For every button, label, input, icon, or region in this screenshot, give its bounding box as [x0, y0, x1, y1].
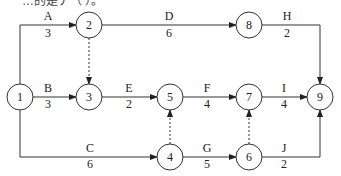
- node-label-7: 7: [246, 90, 252, 104]
- activity-duration-C: 6: [87, 157, 93, 171]
- node-3: 3: [76, 84, 102, 110]
- activity-duration-B: 3: [45, 97, 51, 111]
- activity-duration-A: 3: [45, 26, 51, 40]
- activity-name-J: J: [282, 141, 287, 155]
- network-diagram: A 3 B 3 C 6 D 6 E 2 F 4 G 5 H 2 I 4 J 2 …: [0, 0, 341, 176]
- activity-name-G: G: [203, 141, 212, 155]
- node-5: 5: [157, 84, 183, 110]
- activity-name-H: H: [283, 9, 292, 23]
- node-label-4: 4: [167, 150, 173, 164]
- activity-duration-F: 4: [204, 97, 210, 111]
- node-label-9: 9: [317, 90, 323, 104]
- activity-name-I: I: [282, 81, 286, 95]
- activity-name-A: A: [44, 9, 53, 23]
- activity-name-E: E: [125, 81, 132, 95]
- node-label-8: 8: [246, 18, 252, 32]
- arrow-J: [262, 110, 320, 157]
- node-label-1: 1: [17, 90, 23, 104]
- activity-name-F: F: [204, 81, 211, 95]
- node-6: 6: [236, 144, 262, 170]
- node-label-2: 2: [86, 18, 92, 32]
- activity-name-C: C: [86, 141, 94, 155]
- activity-duration-G: 5: [204, 157, 210, 171]
- activity-duration-J: 2: [281, 157, 287, 171]
- node-label-6: 6: [246, 150, 252, 164]
- node-8: 8: [236, 12, 262, 38]
- cropped-header-text: …的是ア（ ）。: [22, 0, 103, 8]
- node-4: 4: [157, 144, 183, 170]
- activity-duration-I: 4: [281, 97, 287, 111]
- node-7: 7: [236, 84, 262, 110]
- node-1: 1: [7, 84, 33, 110]
- node-label-3: 3: [86, 90, 92, 104]
- arrow-H: [262, 25, 320, 84]
- activity-name-D: D: [165, 9, 174, 23]
- activity-duration-E: 2: [126, 97, 132, 111]
- node-label-5: 5: [167, 90, 173, 104]
- activity-name-B: B: [44, 81, 52, 95]
- activity-duration-D: 6: [166, 26, 172, 40]
- activity-duration-H: 2: [284, 26, 290, 40]
- node-2: 2: [76, 12, 102, 38]
- node-9: 9: [307, 84, 333, 110]
